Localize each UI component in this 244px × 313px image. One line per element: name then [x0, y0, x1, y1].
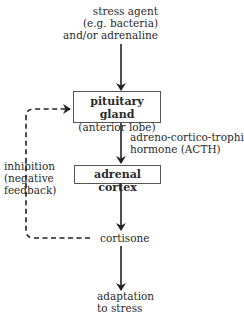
stress-agent-line-3: and/or adrenaline [63, 29, 158, 41]
inhibition-line-2: (negative [4, 172, 56, 184]
adrenal-cortex-box: adrenal cortex [74, 165, 161, 184]
adaptation-line-2: to stress [97, 302, 154, 313]
acth-line-2: hormone (ACTH) [130, 143, 244, 155]
stress-agent-line-2: (e.g. bacteria) [63, 17, 158, 29]
cortisone-label: cortisone [99, 232, 151, 244]
adaptation-label: adaptation to stress [97, 290, 154, 313]
acth-line-1: adreno-cortico-trophic [130, 131, 244, 143]
inhibition-label: inhibition (negative feedback) [4, 160, 56, 196]
pituitary-gland-box: pituitary gland (anterior lobe) [73, 91, 161, 123]
stress-agent-line-1: stress agent [63, 5, 158, 17]
acth-label: adreno-cortico-trophic hormone (ACTH) [130, 131, 244, 155]
inhibition-line-1: inhibition [4, 160, 56, 172]
diagram-connectors [0, 0, 244, 313]
pituitary-gland-title: pituitary gland [74, 95, 160, 121]
adaptation-line-1: adaptation [97, 290, 154, 302]
adrenal-cortex-title: adrenal cortex [75, 168, 160, 194]
inhibition-line-3: feedback) [4, 184, 56, 196]
stress-agent-label: stress agent (e.g. bacteria) and/or adre… [63, 5, 158, 41]
